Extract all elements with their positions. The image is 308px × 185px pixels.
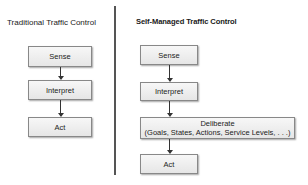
left-arrow-sense-interpret — [60, 67, 61, 79]
left-interpret-box: Interpret — [28, 80, 92, 100]
left-act-label: Act — [55, 123, 66, 132]
right-interpret-box: Interpret — [140, 82, 198, 101]
right-deliberate-box: Deliberate (Goals, States, Actions, Serv… — [140, 117, 295, 139]
right-arrow-interpret-deliberate — [169, 101, 170, 116]
right-arrow-sense-interpret — [169, 65, 170, 81]
left-sense-label: Sense — [49, 52, 70, 61]
right-interpret-label: Interpret — [155, 87, 183, 96]
right-act-box: Act — [140, 154, 198, 174]
panel-divider — [114, 6, 116, 175]
left-interpret-label: Interpret — [46, 86, 74, 95]
left-sense-box: Sense — [28, 46, 92, 67]
left-panel-title: Traditional Traffic Control — [7, 18, 96, 27]
right-act-label: Act — [164, 160, 175, 169]
right-sense-box: Sense — [140, 45, 198, 65]
left-arrow-interpret-act — [60, 100, 61, 116]
right-deliberate-sublabel: (Goals, States, Actions, Service Levels,… — [145, 128, 291, 137]
right-sense-label: Sense — [158, 51, 179, 60]
right-panel-title: Self-Managed Traffic Control — [136, 17, 237, 26]
right-arrow-deliberate-act — [169, 139, 170, 153]
left-act-box: Act — [28, 117, 92, 137]
right-deliberate-label: Deliberate — [200, 119, 234, 128]
